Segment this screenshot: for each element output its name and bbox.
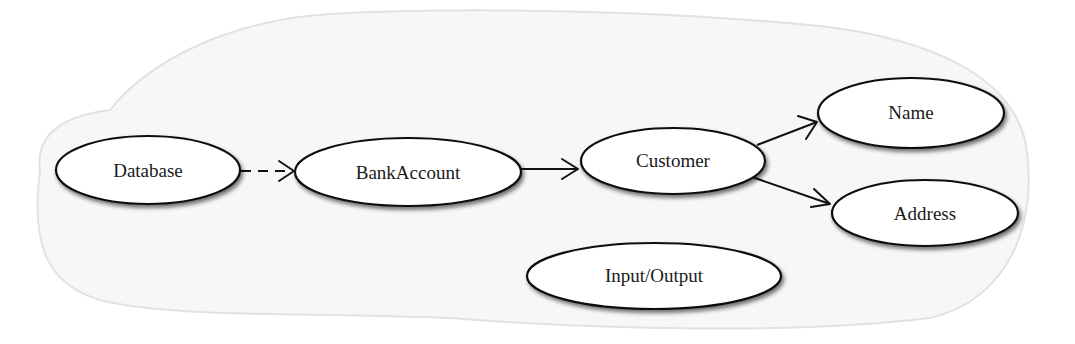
node-address-label: Address [894,203,956,224]
node-bankaccount[interactable]: BankAccount [295,138,521,206]
node-address[interactable]: Address [832,180,1018,246]
class-diagram: Database BankAccount Customer Name Addre… [0,0,1075,344]
node-customer[interactable]: Customer [581,128,765,194]
node-inputoutput-label: Input/Output [605,265,704,286]
node-name-label: Name [888,102,933,123]
node-inputoutput[interactable]: Input/Output [527,243,781,309]
node-name[interactable]: Name [818,78,1004,148]
node-customer-label: Customer [636,150,711,171]
node-bankaccount-label: BankAccount [356,162,461,183]
node-database-label: Database [113,160,183,181]
node-database[interactable]: Database [56,136,240,204]
